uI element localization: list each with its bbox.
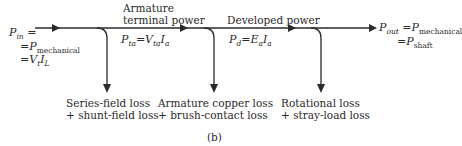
input-vi-eq: =VtIL [20,54,50,70]
input-mech-symbol: =P [20,40,37,53]
flow-arrow-icon [52,24,60,32]
input-i-sub: L [45,59,50,68]
loss-2-line-2: + brush-contact loss [158,109,268,121]
developed-power-heading: Developed power [227,14,320,26]
ea-symbol: =E [241,33,258,46]
ia-sub: a [267,39,271,48]
loss-2-line-1: Armature copper loss [158,97,273,109]
loss-1-line-2: + shunt-field loss [66,109,159,121]
loss-3-line-1: Rotational loss [281,97,360,109]
output-shaft-subscript: shaft [414,41,433,50]
pta-sub: ta [128,39,136,48]
loss-arrow-icon [103,84,111,93]
developed-power-equation: Pd=EaIa [229,34,272,50]
output-shaft-symbol: =P [397,35,414,48]
vta-symbol: =V [136,33,153,46]
figure-label: (b) [207,131,222,143]
loss-1-line-1: Series-field loss [66,97,150,109]
loss-3-line-2: + stray-load loss [281,109,370,121]
armature-terminal-heading-1: Armature [123,2,174,14]
loss-arrow-icon [210,84,218,93]
input-equals: = [24,26,37,39]
output-shaft-eq: =Pshaft [397,36,433,52]
armature-terminal-heading-2: terminal power [123,14,205,26]
ia-sub: a [165,39,169,48]
output-arrow-icon [369,24,377,32]
loss-branch-line-3 [311,28,321,86]
output-mech-symbol: =P [399,21,419,34]
armature-terminal-equation: Pta=VtaIa [121,34,169,50]
output-mech-subscript: mechanical [419,27,462,36]
input-v: =V [20,53,37,66]
loss-branch-line-2 [204,28,214,86]
loss-branch-line-1 [97,28,107,86]
loss-arrow-icon [317,84,325,93]
vta-sub: ta [153,39,161,48]
